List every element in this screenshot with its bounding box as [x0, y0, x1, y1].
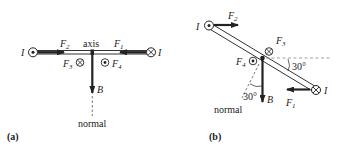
current-label-right: I [323, 85, 328, 96]
force-f3-label: F3 [275, 35, 286, 48]
panel-b: 30° I F2 I F1 F3 F4 [195, 10, 332, 143]
normal-label: normal [78, 118, 107, 129]
current-label-right: I [157, 47, 162, 58]
angle-label-bottom: 30° [243, 91, 257, 102]
current-in-icon [312, 86, 321, 95]
force-f1-label: F1 [285, 97, 296, 110]
force-f4-out-of-page-icon [101, 59, 109, 67]
current-out-icon [29, 48, 38, 57]
angle-arc-top [288, 59, 290, 71]
axis-label: axis [83, 38, 99, 49]
force-f3-label: F3 [62, 58, 73, 71]
normal-label: normal [214, 104, 243, 115]
field-b-label: B [267, 94, 273, 105]
force-f4-label: F4 [111, 58, 122, 71]
panel-a: I I B normal F2 axis F1 F3 F4 (a) [7, 38, 162, 143]
current-out-icon [205, 21, 214, 30]
force-f3-into-page-icon [76, 59, 84, 67]
current-label-left: I [195, 21, 200, 32]
force-f4-label: F4 [235, 56, 246, 69]
field-b-label: B [97, 84, 103, 95]
panel-b-tag: (b) [209, 131, 221, 143]
force-f1-label: F1 [113, 38, 124, 51]
coil-edge-top [211, 24, 318, 89]
force-f2-label: F2 [227, 10, 238, 23]
current-label-left: I [20, 47, 25, 58]
current-in-icon [147, 48, 156, 57]
force-f2-label: F2 [59, 38, 70, 51]
angle-label-top: 30° [292, 61, 306, 72]
force-f3-into-page-icon [265, 48, 273, 56]
coil-force-diagram: I I B normal F2 axis F1 F3 F4 (a) [0, 0, 348, 152]
angle-arc-bottom [250, 84, 262, 87]
panel-a-tag: (a) [7, 131, 19, 143]
force-f4-out-of-page-icon [249, 57, 257, 65]
